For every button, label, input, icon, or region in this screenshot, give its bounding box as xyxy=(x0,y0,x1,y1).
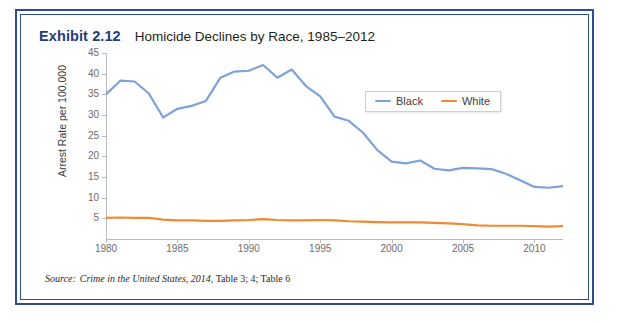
x-tick-mark-1995 xyxy=(320,240,321,243)
y-tick-35: 35 xyxy=(73,89,99,99)
x-tick-mark-2005 xyxy=(463,240,464,243)
y-tick-15: 15 xyxy=(73,172,99,182)
y-tick-5: 5 xyxy=(73,213,99,223)
x-tick-2010: 2010 xyxy=(514,243,554,254)
legend-entry-white[interactable]: White xyxy=(441,95,490,107)
y-axis-title: Arrest Rate per 100,000 xyxy=(56,46,68,196)
chart-legend: Black White xyxy=(365,91,501,112)
x-tick-2005: 2005 xyxy=(443,243,483,254)
x-tick-1990: 1990 xyxy=(229,243,269,254)
source-note: Source:Crime in the United States, 2014,… xyxy=(45,273,290,284)
x-tick-mark-2010 xyxy=(534,240,535,243)
x-tick-mark-2000 xyxy=(392,240,393,243)
y-axis-tick-labels: 51015202530354045 xyxy=(73,53,99,238)
x-tick-2000: 2000 xyxy=(372,243,412,254)
source-prefix: Source: xyxy=(45,273,76,284)
legend-swatch-black xyxy=(375,100,391,103)
x-tick-mark-1980 xyxy=(106,240,107,243)
y-tick-10: 10 xyxy=(73,193,99,203)
page-title: Homicide Declines by Race, 1985–2012 xyxy=(135,29,375,44)
y-tick-40: 40 xyxy=(73,69,99,79)
chart-series-svg xyxy=(106,53,563,240)
legend-entry-black[interactable]: Black xyxy=(375,95,423,107)
x-tick-1980: 1980 xyxy=(86,243,126,254)
exhibit-number-label: Exhibit 2.12 xyxy=(39,28,121,44)
series-line-black xyxy=(106,65,563,188)
x-tick-1985: 1985 xyxy=(157,243,197,254)
legend-swatch-white xyxy=(441,100,457,103)
y-tick-25: 25 xyxy=(73,131,99,141)
chart-plot-area: Arrest Rate per 100,000 5101520253035404… xyxy=(39,53,569,253)
source-tables: , Table 3; 4; Table 6 xyxy=(211,273,290,284)
x-tick-mark-1985 xyxy=(177,240,178,243)
x-tick-1995: 1995 xyxy=(300,243,340,254)
y-tick-30: 30 xyxy=(73,110,99,120)
source-publication: Crime in the United States, 2014 xyxy=(80,273,211,284)
legend-label-black: Black xyxy=(396,95,423,107)
y-tick-45: 45 xyxy=(73,48,99,58)
series-line-white xyxy=(106,218,563,227)
x-tick-mark-1990 xyxy=(249,240,250,243)
y-tick-20: 20 xyxy=(73,151,99,161)
legend-label-white: White xyxy=(462,95,490,107)
exhibit-title-row: Exhibit 2.12Homicide Declines by Race, 1… xyxy=(39,27,375,45)
exhibit-frame: Exhibit 2.12Homicide Declines by Race, 1… xyxy=(15,9,594,305)
